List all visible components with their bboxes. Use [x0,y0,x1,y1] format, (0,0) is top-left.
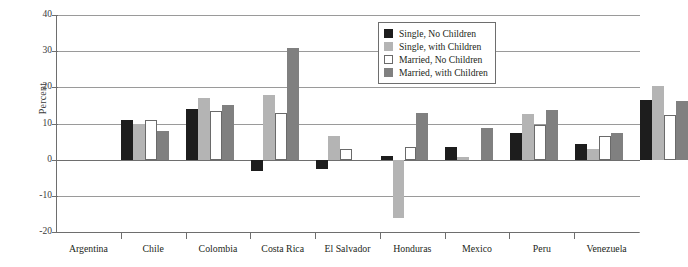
legend-item-label: Married, No Children [399,55,482,65]
x-axis-category-label: Colombia [186,243,251,254]
bar [575,144,587,160]
bar [263,95,275,160]
bar [405,147,417,160]
bar [445,147,457,160]
bar [222,105,234,159]
legend: Single, No ChildrenSingle, with Children… [378,22,496,84]
bar [522,114,534,160]
bar [457,157,469,160]
bar [416,113,428,160]
bar [186,109,198,160]
bar [121,120,133,160]
swatch-married-with-children [384,68,393,77]
bar [652,86,664,160]
bar [328,136,340,160]
bar [381,156,393,160]
y-tick-label: 40 [18,10,52,20]
bar [599,136,611,160]
x-axis-separator [250,232,251,239]
y-tick-mark [52,124,58,125]
bar [157,131,169,160]
bar [534,125,546,159]
gridline [57,15,640,16]
y-tick-label: -10 [18,191,52,201]
x-axis-category-label: Costa Rica [250,243,315,254]
y-tick-label: 0 [18,155,52,165]
bar [676,101,688,160]
legend-item-label: Single, with Children [399,42,481,52]
bar [510,133,522,160]
y-tick-mark [52,196,58,197]
x-axis-category-label: Venezuela [574,243,639,254]
y-tick-label: -20 [18,227,52,237]
x-axis-separator [121,232,122,239]
bar [393,160,405,218]
x-axis-category-label: El Salvador [315,243,380,254]
bar [316,160,328,169]
x-axis-category-label: Chile [121,243,186,254]
bar [210,111,222,160]
legend-item: Married, with Children [384,66,488,79]
y-tick-label: 30 [18,46,52,56]
legend-item: Single, with Children [384,40,488,53]
bar [287,48,299,160]
gridline [57,51,640,52]
y-tick-label: 20 [18,82,52,92]
x-axis-separator [380,232,381,239]
legend-item: Single, No Children [384,27,488,40]
bar [340,149,352,160]
y-tick-label: 10 [18,119,52,129]
x-axis-separator [509,232,510,239]
bar [640,100,652,160]
x-axis-category-label: Honduras [380,243,445,254]
gridline [57,87,640,88]
legend-item-label: Single, No Children [399,29,476,39]
bar [611,133,623,159]
bar [133,124,145,160]
bar [198,98,210,159]
x-axis-category-label: Argentina [56,243,121,254]
x-axis-category-label: Mexico [445,243,510,254]
y-tick-mark [52,15,58,16]
legend-item-label: Married, with Children [399,68,488,78]
x-axis-category-label: Peru [509,243,574,254]
bar [481,128,493,159]
legend-item: Married, No Children [384,53,488,66]
y-tick-mark [52,51,58,52]
x-axis-line [56,232,639,233]
x-axis-separator [445,232,446,239]
x-axis-separator [574,232,575,239]
gridline [57,160,640,161]
swatch-single-no-children [384,29,393,38]
bar [664,115,676,159]
swatch-married-no-children [384,55,393,64]
bar [251,160,263,171]
bar [546,110,558,160]
x-axis-separator [315,232,316,239]
swatch-single-with-children [384,42,393,51]
plot-area [56,15,639,232]
bar [145,120,157,160]
gridline [57,196,640,197]
y-axis-ticks: 403020100-10-20 [0,0,52,267]
y-tick-mark [52,160,58,161]
y-tick-mark [52,87,58,88]
bar [587,149,599,160]
bar [275,113,287,160]
x-axis-separator [186,232,187,239]
